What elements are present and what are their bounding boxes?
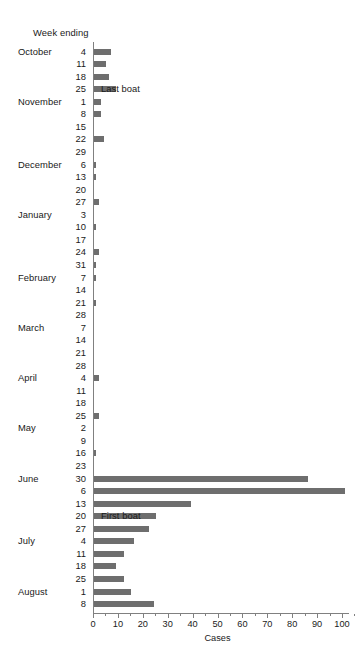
- bar: [94, 224, 96, 230]
- month-label: December: [18, 159, 62, 170]
- week-date-label: 4: [62, 535, 86, 546]
- bar: [94, 450, 96, 456]
- week-date-label: 29: [62, 146, 86, 157]
- week-date-label: 20: [62, 510, 86, 521]
- month-label: February: [18, 272, 56, 283]
- week-date-label: 2: [62, 422, 86, 433]
- x-axis-tick: [267, 614, 268, 618]
- bar: [94, 61, 106, 67]
- week-date-label: 1: [62, 586, 86, 597]
- week-date-label: 16: [62, 447, 86, 458]
- x-axis-tick-label: 50: [212, 619, 222, 629]
- week-date-label: 18: [62, 560, 86, 571]
- bar: [94, 99, 101, 105]
- week-date-label: 18: [62, 71, 86, 82]
- x-axis-tick-label: 20: [138, 619, 148, 629]
- week-date-label: 4: [62, 46, 86, 57]
- x-axis-minor-tick: [130, 614, 131, 617]
- week-date-label: 22: [62, 133, 86, 144]
- x-axis-minor-tick: [155, 614, 156, 617]
- week-date-label: 27: [62, 523, 86, 534]
- plot-area: 0102030405060708090100Cases4111825181522…: [0, 0, 363, 645]
- month-label: March: [18, 322, 44, 333]
- week-date-label: 18: [62, 397, 86, 408]
- bar: [94, 162, 96, 168]
- bar: [94, 262, 96, 268]
- x-axis-title: Cases: [204, 633, 230, 643]
- bar: [94, 576, 124, 582]
- week-date-label: 13: [62, 498, 86, 509]
- week-date-label: 3: [62, 209, 86, 220]
- x-axis-tick: [93, 614, 94, 618]
- bar: [94, 601, 154, 607]
- bar: [94, 111, 101, 117]
- month-label: July: [18, 535, 35, 546]
- bar: [94, 249, 99, 255]
- week-date-label: 11: [62, 548, 86, 559]
- x-axis-tick-label: 40: [187, 619, 197, 629]
- week-date-label: 11: [62, 58, 86, 69]
- x-axis-tick: [143, 614, 144, 618]
- bar: [94, 300, 96, 306]
- week-date-label: 24: [62, 246, 86, 257]
- x-axis-minor-tick: [180, 614, 181, 617]
- week-date-label: 28: [62, 360, 86, 371]
- week-date-label: 25: [62, 410, 86, 421]
- x-axis-tick-label: 60: [237, 619, 247, 629]
- bar: [94, 563, 116, 569]
- week-date-label: 4: [62, 372, 86, 383]
- week-date-label: 7: [62, 322, 86, 333]
- week-date-label: 11: [62, 385, 86, 396]
- week-date-label: 8: [62, 598, 86, 609]
- week-date-label: 21: [62, 347, 86, 358]
- bar: [94, 476, 308, 482]
- week-date-label: 25: [62, 83, 86, 94]
- x-axis-tick: [292, 614, 293, 618]
- week-date-label: 21: [62, 297, 86, 308]
- x-axis-tick: [242, 614, 243, 618]
- x-axis-tick-label: 0: [90, 619, 95, 629]
- month-label: August: [18, 586, 48, 597]
- week-date-label: 30: [62, 473, 86, 484]
- month-label: October: [18, 46, 52, 57]
- bar: [94, 589, 131, 595]
- x-axis-tick-label: 90: [312, 619, 322, 629]
- x-axis-tick-label: 80: [287, 619, 297, 629]
- x-axis-minor-tick: [205, 614, 206, 617]
- chart-annotation: Last boat: [101, 83, 140, 94]
- epidemic-curve-chart: Week ending 0102030405060708090100Cases4…: [0, 0, 363, 645]
- chart-annotation: First boat: [101, 510, 141, 521]
- x-axis-tick-label: 10: [113, 619, 123, 629]
- bar: [94, 375, 99, 381]
- x-axis-tick: [342, 614, 343, 618]
- week-date-label: 28: [62, 309, 86, 320]
- value-axis-line: [93, 613, 349, 614]
- week-date-label: 23: [62, 460, 86, 471]
- bar: [94, 275, 96, 281]
- week-date-label: 17: [62, 234, 86, 245]
- bar: [94, 501, 191, 507]
- week-date-label: 25: [62, 573, 86, 584]
- week-date-label: 6: [62, 485, 86, 496]
- bar: [94, 551, 124, 557]
- x-axis-tick-label: 100: [334, 619, 349, 629]
- week-date-label: 15: [62, 121, 86, 132]
- bar: [94, 49, 111, 55]
- x-axis-tick: [168, 614, 169, 618]
- x-axis-tick-label: 30: [163, 619, 173, 629]
- week-date-label: 14: [62, 284, 86, 295]
- month-label: June: [18, 473, 39, 484]
- week-date-label: 20: [62, 184, 86, 195]
- week-date-label: 10: [62, 221, 86, 232]
- week-date-label: 1: [62, 96, 86, 107]
- x-axis-tick-label: 70: [262, 619, 272, 629]
- week-date-label: 13: [62, 171, 86, 182]
- bar: [94, 488, 345, 494]
- x-axis-tick: [118, 614, 119, 618]
- x-axis-minor-tick: [330, 614, 331, 617]
- x-axis-tick: [218, 614, 219, 618]
- week-date-label: 9: [62, 435, 86, 446]
- week-date-label: 6: [62, 159, 86, 170]
- bar: [94, 199, 99, 205]
- month-label: January: [18, 209, 52, 220]
